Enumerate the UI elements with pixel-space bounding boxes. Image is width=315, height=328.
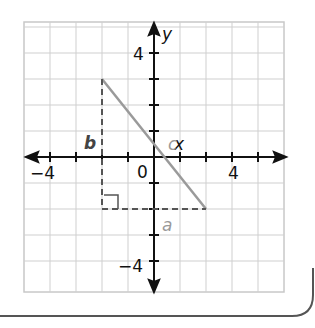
origin-label: 0 — [137, 162, 148, 182]
label-a: a — [162, 215, 172, 235]
label-b: b — [84, 133, 96, 153]
label-c: c — [168, 134, 178, 154]
y-axis-label: y — [161, 24, 173, 44]
x-tick-label-4: 4 — [228, 163, 239, 183]
y-tick-label-4: 4 — [133, 44, 144, 64]
x-tick-label-neg4: −4 — [30, 163, 55, 183]
coordinate-graph: x y −4 4 4 −4 0 b c a — [0, 0, 315, 328]
y-tick-label-neg4: −4 — [118, 256, 143, 276]
